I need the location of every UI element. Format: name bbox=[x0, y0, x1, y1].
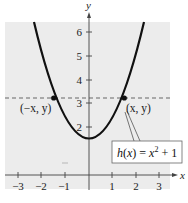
y-tick-label: 2 bbox=[77, 121, 83, 133]
x-tick-label: 2 bbox=[133, 180, 139, 192]
y-tick-label: 3 bbox=[77, 97, 83, 109]
chart: −3 −2 −1 1 2 3 2 3 4 5 6 x y (−x, y) (x,… bbox=[0, 0, 188, 203]
x-axis-arrow-icon bbox=[172, 173, 178, 177]
y-tick-label: 5 bbox=[77, 50, 83, 62]
function-label: h(x) = x2 + 1 bbox=[117, 145, 177, 160]
x-tick-label: −3 bbox=[12, 180, 24, 192]
point-left bbox=[51, 95, 56, 100]
x-tick-label: 3 bbox=[156, 180, 162, 192]
x-tick-label: 1 bbox=[109, 180, 115, 192]
y-tick-label: 6 bbox=[77, 26, 83, 38]
x-tick-label: −2 bbox=[35, 180, 47, 192]
y-tick-label: 4 bbox=[77, 74, 83, 86]
point-right-label: (x, y) bbox=[126, 102, 151, 115]
y-axis-label: y bbox=[85, 0, 91, 11]
point-left-label: (−x, y) bbox=[20, 102, 52, 115]
x-tick-label: −1 bbox=[58, 180, 70, 192]
y-axis-arrow-icon bbox=[87, 12, 91, 18]
point-right bbox=[122, 95, 127, 100]
x-axis-label: x bbox=[179, 169, 185, 181]
